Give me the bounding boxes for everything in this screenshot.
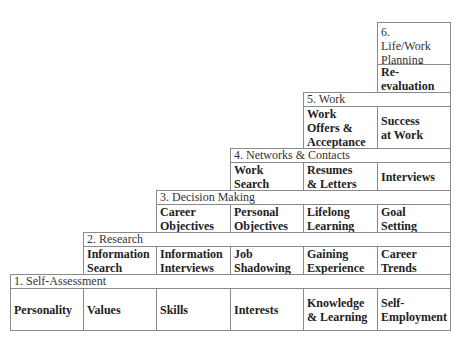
item-line: Interviews xyxy=(381,170,435,184)
item-line: Re- xyxy=(381,65,434,79)
level-2-item-gaining-experience: GainingExperience xyxy=(303,246,378,275)
item-line: Lifelong xyxy=(307,205,354,219)
level-2-item-information-search: InformationSearch xyxy=(83,246,157,275)
item-line: Search xyxy=(87,261,150,275)
item-line: Setting xyxy=(381,219,417,233)
level-6-header-line: Life/Work xyxy=(381,39,447,53)
level-3-header: 3. Decision Making xyxy=(156,190,451,205)
item-line: Success xyxy=(381,114,423,128)
item-line: Self- xyxy=(381,296,447,310)
level-4-item-resumes-letters: Resumes& Letters xyxy=(303,162,378,191)
item-line: Goal xyxy=(381,205,417,219)
level-5-item-work-offers: WorkOffers &Acceptance xyxy=(303,106,378,149)
item-line: Information xyxy=(160,247,223,261)
level-2-header: 2. Research xyxy=(83,232,451,247)
item-line: Skills xyxy=(160,303,188,317)
item-line: & Learning xyxy=(307,310,367,324)
item-line: Objectives xyxy=(234,219,288,233)
item-line: Trends xyxy=(381,261,417,275)
item-line: Search xyxy=(234,177,269,191)
level-1-header: 1. Self-Assessment xyxy=(10,274,451,289)
item-line: Experience xyxy=(307,261,364,275)
level-3-item-lifelong-learning: LifelongLearning xyxy=(303,204,378,233)
item-line: Knowledge xyxy=(307,296,367,310)
item-line: Resumes xyxy=(307,163,357,177)
level-3-item-goal-setting: GoalSetting xyxy=(377,204,451,233)
level-1-item-knowledge-learning: Knowledge& Learning xyxy=(303,288,378,331)
level-4-item-interviews: Interviews xyxy=(377,162,451,191)
level-1-item-self-employment: Self-Employment xyxy=(377,288,451,331)
item-line: Shadowing xyxy=(234,261,291,275)
item-line: & Letters xyxy=(307,177,357,191)
level-1-item-values: Values xyxy=(83,288,157,331)
level-5-header: 5. Work xyxy=(303,92,451,107)
item-line: Career xyxy=(160,205,214,219)
level-1-item-personality: Personality xyxy=(10,288,84,331)
item-line: Interests xyxy=(234,303,278,317)
level-4-header: 4. Networks & Contacts xyxy=(230,148,451,163)
level-3-item-personal-objectives: PersonalObjectives xyxy=(230,204,304,233)
level-6-header: 6. Life/Work Planning xyxy=(377,22,451,65)
level-6-item-reevaluation: Re-evaluation xyxy=(377,64,451,93)
item-line: Personal xyxy=(234,205,288,219)
item-line: at Work xyxy=(381,128,423,142)
level-6-header-line: 6. xyxy=(381,25,447,39)
level-2-item-information-interviews: InformationInterviews xyxy=(156,246,231,275)
level-2-item-job-shadowing: JobShadowing xyxy=(230,246,304,275)
item-line: Values xyxy=(87,303,121,317)
item-line: evaluation xyxy=(381,79,434,93)
level-3-item-career-objectives: CareerObjectives xyxy=(156,204,231,233)
item-line: Career xyxy=(381,247,417,261)
level-1-item-interests: Interests xyxy=(230,288,304,331)
item-line: Interviews xyxy=(160,261,223,275)
item-line: Acceptance xyxy=(307,135,366,149)
level-1-item-skills: Skills xyxy=(156,288,231,331)
level-2-item-career-trends: CareerTrends xyxy=(377,246,451,275)
item-line: Job xyxy=(234,247,291,261)
level-5-item-success-at-work: Successat Work xyxy=(377,106,451,149)
item-line: Learning xyxy=(307,219,354,233)
item-line: Objectives xyxy=(160,219,214,233)
item-line: Employment xyxy=(381,310,447,324)
item-line: Personality xyxy=(14,303,72,317)
item-line: Offers & xyxy=(307,121,366,135)
level-4-item-work-search: WorkSearch xyxy=(230,162,304,191)
item-line: Information xyxy=(87,247,150,261)
item-line: Gaining xyxy=(307,247,364,261)
item-line: Work xyxy=(234,163,269,177)
item-line: Work xyxy=(307,107,366,121)
